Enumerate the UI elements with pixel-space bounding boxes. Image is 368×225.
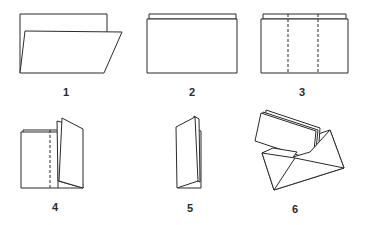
step-1-label: 1 [63, 86, 69, 98]
step-2-figure [147, 14, 237, 73]
folding-diagram: 1 2 3 4 5 [0, 0, 368, 225]
step-3-label: 3 [299, 86, 305, 98]
step-2-label: 2 [189, 86, 195, 98]
step-6-label: 6 [292, 203, 298, 215]
step-1-figure [20, 14, 122, 73]
step-6-figure [255, 110, 344, 190]
step-4-figure [21, 118, 83, 188]
step-5-figure [176, 116, 201, 188]
step-5-label: 5 [187, 202, 193, 214]
step-4-label: 4 [52, 201, 59, 213]
step-3-figure [261, 14, 348, 73]
